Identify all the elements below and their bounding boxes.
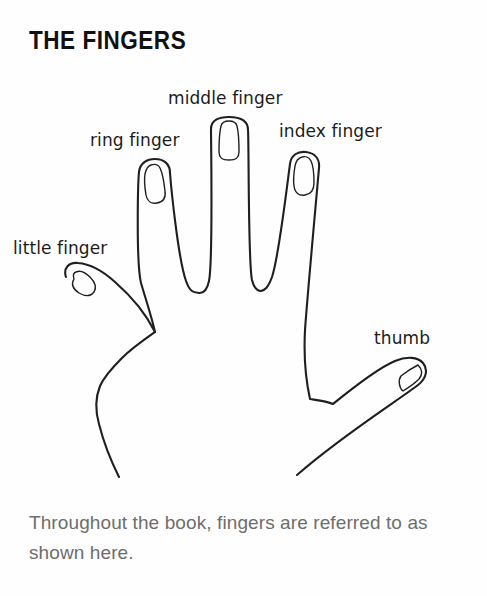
ring-finger-nail [145, 164, 166, 203]
little-finger-nail [73, 271, 96, 295]
label-thumb: thumb [374, 328, 430, 348]
label-middle-finger: middle finger [168, 88, 282, 108]
label-index-finger: index finger [279, 121, 382, 141]
figure-caption: Throughout the book, fingers are referre… [29, 508, 459, 568]
page-root: THE FINGERS middle finger ring finger in… [0, 0, 487, 596]
thumb-nail [399, 365, 421, 391]
hand-figure: middle finger ring finger index finger l… [0, 0, 487, 500]
palm-left-edge [96, 332, 155, 477]
hand-outline [65, 117, 426, 475]
index-finger-nail [294, 157, 314, 196]
label-little-finger: little finger [13, 238, 107, 258]
middle-finger-nail [219, 121, 239, 160]
label-ring-finger: ring finger [90, 130, 180, 150]
